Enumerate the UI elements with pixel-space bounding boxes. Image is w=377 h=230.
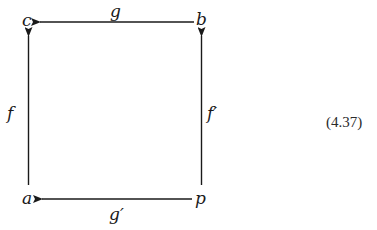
label-f-prime: f′ xyxy=(207,105,217,122)
label-f: f xyxy=(7,105,13,122)
node-a: a xyxy=(22,190,32,207)
node-b: b xyxy=(196,11,207,28)
node-c: c xyxy=(22,12,32,29)
diagram-arrows xyxy=(0,0,377,230)
commutative-diagram: c b a p g g′ f f′ (4.37) xyxy=(0,0,377,230)
label-g-prime: g′ xyxy=(109,206,124,223)
node-p: p xyxy=(195,190,206,207)
label-g: g xyxy=(110,3,121,20)
equation-number: (4.37) xyxy=(326,115,362,130)
